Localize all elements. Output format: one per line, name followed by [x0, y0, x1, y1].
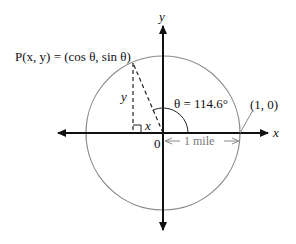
angle-label: θ = 114.6° [174, 97, 228, 110]
origin-label: 0 [154, 137, 161, 150]
horizontal-leg-label: x [145, 119, 151, 132]
angle-arc [153, 108, 188, 133]
radius-label: 1 mile [184, 135, 214, 147]
y-axis-label: y [159, 10, 165, 23]
leader-line [240, 110, 253, 133]
vertical-leg-label: y [121, 90, 127, 103]
x-axis-label: x [273, 126, 279, 139]
reference-point-label: (1, 0) [250, 98, 278, 111]
point-label: P(x, y) = (cos θ, sin θ) [15, 50, 131, 63]
right-angle-marker [133, 125, 141, 133]
